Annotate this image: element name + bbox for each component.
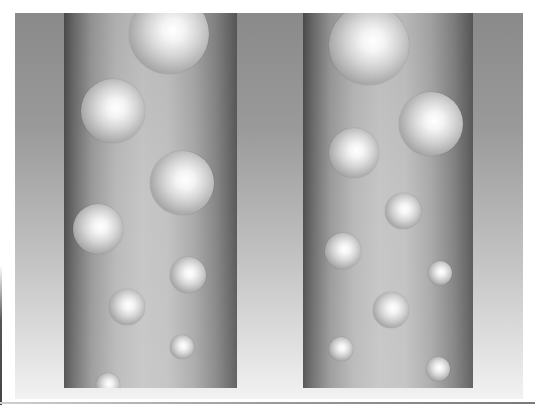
left-edge-line <box>0 265 2 405</box>
bubble <box>150 151 214 215</box>
bubble <box>329 337 353 361</box>
bubble <box>325 233 361 269</box>
bubble <box>73 204 123 254</box>
bubble <box>81 79 145 143</box>
right-tube <box>303 13 473 388</box>
left-tube <box>64 13 237 388</box>
bubble <box>96 373 120 388</box>
bubble <box>373 292 409 328</box>
bubble <box>170 257 206 293</box>
bubble <box>428 261 452 285</box>
bubble <box>329 13 409 85</box>
bubble <box>109 289 145 325</box>
bubble <box>385 193 421 229</box>
image-frame <box>15 13 523 399</box>
bubble <box>329 128 379 178</box>
bubble <box>170 335 194 359</box>
bubble <box>426 357 450 381</box>
bottom-edge-line <box>0 402 535 404</box>
bubble <box>129 13 209 74</box>
bubble <box>399 92 463 156</box>
